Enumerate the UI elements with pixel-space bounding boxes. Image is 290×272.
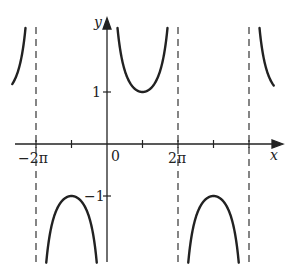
- curve-branch: [260, 28, 274, 86]
- curve-branch: [46, 196, 97, 263]
- y-axis-arrow-icon: [103, 18, 111, 29]
- y-tick-label-1: 1: [92, 84, 101, 100]
- csc-graph: y x 0 −2π 2π 1 −1: [0, 0, 290, 272]
- curve-branch: [118, 28, 168, 92]
- y-tick-label-neg-1: −1: [84, 188, 105, 204]
- origin-label: 0: [111, 148, 120, 164]
- y-axis-label: y: [93, 14, 103, 30]
- x-tick-label-2pi: 2π: [168, 150, 186, 166]
- x-axis-label: x: [270, 147, 278, 163]
- curve-branch: [188, 196, 239, 263]
- x-tick-label-neg-2pi: −2π: [18, 150, 48, 166]
- curve-branch: [12, 28, 25, 84]
- axes: [15, 18, 283, 262]
